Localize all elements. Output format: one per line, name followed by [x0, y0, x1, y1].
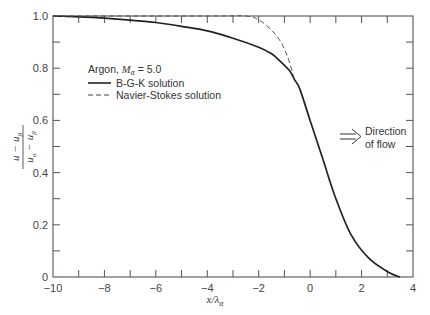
- plot-frame: [53, 16, 413, 277]
- flow-direction-annotation: Direction of flow: [340, 125, 407, 150]
- x-tick-label: −6: [150, 282, 163, 294]
- y-tick-label: 0.2: [33, 219, 48, 231]
- chart: −10−8−6−4−202400.20.40.60.81.0 Argon, Mα…: [0, 0, 430, 315]
- axis-ticks: [53, 16, 413, 277]
- x-axis-label: x/λα: [206, 293, 225, 308]
- axis-tick-labels: −10−8−6−4−202400.20.40.60.81.0: [33, 10, 416, 294]
- y-tick-label: 0.6: [33, 114, 48, 126]
- x-tick-label: 0: [307, 282, 313, 294]
- annotation-line-1: Direction: [365, 125, 407, 137]
- legend-title: Argon, Mα = 5.0: [88, 63, 162, 77]
- bgk-curve: [53, 16, 400, 277]
- x-tick-label: −10: [44, 282, 63, 294]
- y-tick-label: 1.0: [33, 10, 48, 22]
- y-axis-label: u−uβ uα−uβ: [9, 125, 38, 169]
- y-tick-label: 0: [42, 271, 48, 283]
- plot-border: [53, 16, 413, 277]
- y-tick-label: 0.8: [33, 62, 48, 74]
- annotation-line-2: of flow: [365, 138, 396, 150]
- y-tick-label: 0.4: [33, 167, 48, 179]
- x-tick-label: 4: [410, 282, 416, 294]
- legend-entry-bgk: B-G-K solution: [116, 77, 184, 89]
- double-arrow-icon: [340, 129, 361, 144]
- y-axis-label-numerator: u−uβ: [9, 133, 24, 161]
- data-series: [53, 16, 400, 277]
- x-tick-label: −8: [98, 282, 111, 294]
- y-axis-label-denominator: uα−uβ: [23, 131, 38, 163]
- legend: Argon, Mα = 5.0 B-G-K solution Navier-St…: [88, 63, 221, 101]
- x-tick-label: −2: [252, 282, 265, 294]
- x-tick-label: 2: [359, 282, 365, 294]
- legend-entry-navier-stokes: Navier-Stokes solution: [116, 89, 221, 101]
